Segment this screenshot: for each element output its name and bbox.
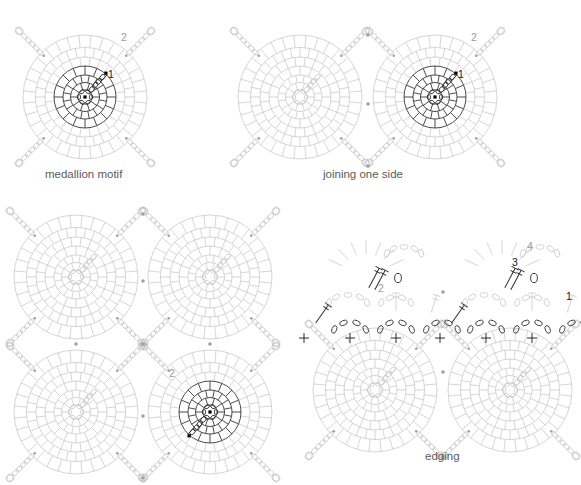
motif-spoke [336, 342, 344, 352]
motif-spoke [438, 75, 439, 82]
motif-spoke [319, 122, 324, 129]
motif-spoke [28, 443, 38, 451]
motif-spoke [484, 91, 496, 92]
motif-spoke [41, 377, 48, 384]
motif-spoke [443, 68, 446, 76]
motif-spoke [356, 427, 360, 436]
motif-spoke [57, 231, 61, 240]
motif-spoke [164, 393, 173, 397]
motif-spoke [387, 128, 397, 136]
motif-spoke [303, 75, 304, 82]
corner-chain-loop [117, 341, 147, 371]
motif-spoke [541, 385, 550, 386]
motif-spoke [344, 120, 355, 126]
motif-spoke [170, 272, 179, 273]
motif-spoke [248, 308, 258, 316]
corner-join-dot [467, 430, 470, 433]
motif-spoke [58, 324, 62, 336]
motif-spoke [44, 119, 52, 124]
motif-spoke [63, 100, 70, 101]
motif-spoke [64, 394, 68, 400]
motif-spoke [105, 289, 113, 292]
motif-spoke [54, 280, 61, 281]
motif-spoke [233, 222, 239, 233]
motif-spoke [109, 299, 117, 304]
motif-spoke [339, 105, 348, 107]
motif-spoke [248, 238, 258, 246]
motif-spoke [54, 428, 60, 434]
motif-spoke [195, 240, 198, 248]
motif-spoke [373, 91, 385, 92]
motif-spoke [241, 272, 250, 273]
motif-spoke [346, 335, 352, 346]
motif-spoke [90, 273, 97, 274]
motif-spoke [390, 344, 394, 353]
corner-join-dot [116, 234, 119, 237]
motif-spoke [353, 406, 359, 412]
motif-spoke [263, 109, 271, 112]
motif-spoke [148, 417, 160, 418]
motif-spoke [107, 56, 112, 64]
motif-spoke [322, 130, 327, 138]
motif-spoke [469, 412, 477, 417]
motif-spoke [186, 380, 191, 387]
motif-spoke [47, 285, 55, 288]
motif-spoke [182, 236, 187, 244]
motif-spoke [259, 417, 271, 418]
motif-spoke [268, 73, 275, 78]
motif-spoke [148, 271, 160, 272]
motif-spoke [54, 415, 61, 416]
motif-spoke [164, 292, 173, 296]
motif-spoke [413, 113, 419, 119]
motif-spoke [423, 109, 427, 115]
motif-spoke [387, 58, 397, 66]
motif-spoke [216, 416, 222, 420]
motif-spoke [30, 393, 39, 397]
motif-spoke [114, 82, 122, 85]
round-start-dot [208, 410, 211, 413]
join-dot [366, 33, 370, 37]
motif-spoke [424, 395, 436, 396]
motif-spoke [67, 105, 73, 109]
motif-spoke [39, 78, 48, 82]
motif-spoke [423, 79, 427, 85]
motif-spoke [186, 302, 191, 309]
motif-spoke [222, 375, 225, 383]
motif-spoke [182, 371, 187, 379]
motif-spoke [218, 297, 221, 305]
motif-spoke [188, 390, 194, 396]
motif-spoke [151, 394, 163, 398]
motif-spoke [214, 237, 215, 246]
motif-spoke [439, 128, 440, 137]
motif-spoke [338, 402, 346, 405]
corner-join-dot [167, 452, 170, 455]
motif-spoke [238, 305, 245, 312]
motif-spoke [338, 375, 346, 378]
motif-spoke [28, 238, 38, 246]
join-dot [74, 342, 78, 346]
motif-spoke [80, 308, 81, 317]
motif-spoke [518, 361, 521, 369]
motif-spoke [122, 112, 131, 116]
motif-spoke [182, 445, 187, 453]
motif-spoke [455, 85, 463, 88]
motif-spoke [101, 253, 108, 258]
motif-spoke [96, 265, 104, 268]
motif-spoke [403, 116, 410, 121]
motif-spoke [105, 85, 113, 88]
motif-spoke [407, 56, 412, 64]
motif-spoke [389, 331, 393, 343]
motif-spoke [115, 267, 124, 269]
motif-spoke [451, 372, 463, 376]
chain-arc [467, 319, 506, 334]
motif-spoke [212, 398, 214, 405]
motif-spoke [313, 384, 325, 385]
motif-spoke [448, 395, 460, 396]
motif-spoke [107, 416, 116, 417]
motif-spoke [320, 105, 328, 108]
motif-spoke [44, 388, 51, 393]
motif-spoke [107, 130, 112, 138]
motif-spoke [115, 402, 124, 404]
motif-spoke [57, 56, 62, 64]
motif-spoke [58, 353, 62, 365]
